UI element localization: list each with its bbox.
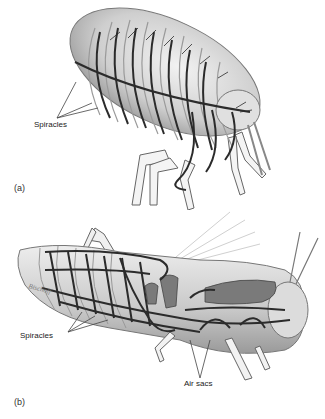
label-air-sacs: Air sacs: [184, 380, 212, 388]
panel-label-b: (b): [14, 398, 25, 407]
tracheal-system-figure: Bischoff Spiracles (a) Spiracles Air sac…: [0, 0, 325, 419]
grasshopper-illustration: Bischoff: [0, 210, 325, 419]
flea-legs: [132, 132, 266, 210]
label-spiracles-a: Spiracles: [34, 121, 67, 129]
panel-label-a: (a): [14, 184, 25, 193]
spiracles-leader-lines-a: [57, 82, 98, 118]
label-spiracles-b: Spiracles: [20, 332, 53, 340]
flea-illustration: [0, 0, 325, 210]
grasshopper-wing: [170, 212, 260, 262]
